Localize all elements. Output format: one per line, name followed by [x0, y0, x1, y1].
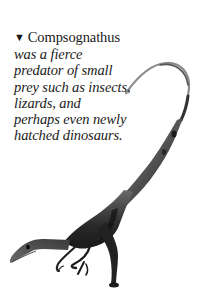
illustration-caption: ▼Compsognathus was a fierce predator of … [14, 29, 134, 143]
hind-leg [98, 222, 119, 288]
caption-line: lizards, and [14, 95, 134, 111]
caption-lead: ▼Compsognathus [14, 29, 120, 45]
caption-line: hatched dinosaurs. [14, 127, 134, 143]
down-triangle-icon: ▼ [14, 29, 25, 45]
book-page: ▼Compsognathus was a fierce predator of … [0, 0, 203, 302]
caption-line: predator of small [14, 62, 134, 78]
caption-subject: Compsognathus [28, 29, 120, 45]
foot [109, 283, 119, 288]
caption-line: was a fierce [14, 46, 134, 62]
caption-line: perhaps even newly [14, 111, 134, 127]
eye [26, 245, 30, 249]
arms [57, 246, 90, 275]
caption-line: prey such as insects, [14, 79, 134, 95]
body [64, 190, 133, 249]
